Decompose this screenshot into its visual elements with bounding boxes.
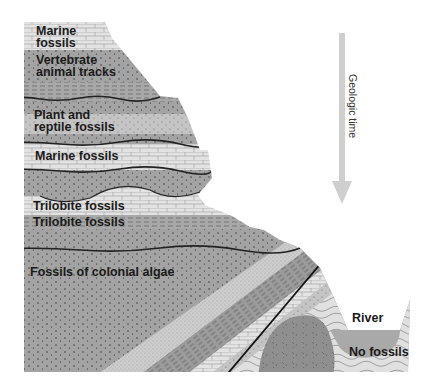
label-marine-top-2: fossils — [36, 36, 76, 50]
geologic-cross-section-diagram: Marine fossils Vertebrate animal tracks … — [0, 0, 431, 378]
label-plant-2: reptile fossils — [34, 120, 115, 134]
geologic-time-arrow: Geologic time — [332, 33, 359, 204]
arrow-shaft — [339, 33, 345, 181]
label-colonial-algae: Fossils of colonial algae — [30, 265, 175, 279]
arrow-down-icon — [332, 181, 352, 204]
label-trilobite-2: Trilobite fossils — [33, 215, 125, 229]
layer-erosion-wavy — [0, 170, 431, 202]
label-no-fossils: No fossils — [349, 345, 409, 359]
cross-section-svg: Marine fossils Vertebrate animal tracks … — [0, 0, 431, 378]
layer-shale-1 — [0, 82, 431, 102]
label-marine-mid: Marine fossils — [35, 149, 118, 163]
geologic-time-label: Geologic time — [347, 74, 359, 138]
layer-sandstone-2 — [0, 134, 431, 144]
label-river: River — [352, 311, 383, 325]
layer-sandstone-3 — [0, 229, 431, 249]
label-vertebrate-2: animal tracks — [36, 65, 116, 79]
label-trilobite-1: Trilobite fossils — [33, 199, 125, 213]
